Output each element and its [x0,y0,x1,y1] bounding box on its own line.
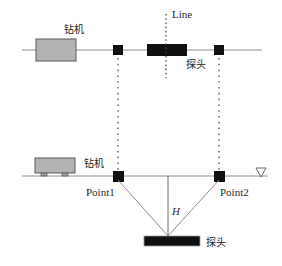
bottom-probe-label: 探头 [206,236,226,248]
top-probe-label: 探头 [186,58,206,70]
bottom-probe-bar [144,236,200,246]
point1-label: Point1 [86,186,115,198]
top-rig-label: 钻机 [64,23,84,35]
point2-label: Point2 [220,186,249,198]
bottom-drilling-rig-box [35,158,75,173]
depth-label-h: H [171,205,181,217]
marker-point2 [214,171,225,182]
top-probe-bar [147,44,187,56]
top-drilling-rig-box [36,39,76,61]
bottom-rig-label: 钻机 [84,157,104,169]
rig-wheel-left [41,173,47,176]
top-marker-point1 [113,45,123,55]
technical-diagram: 钻机 Line 探头 钻机 [0,0,282,266]
top-marker-point2 [214,45,224,55]
diagram-canvas: 钻机 Line 探头 钻机 [0,0,282,266]
line-label: Line [172,8,192,20]
rig-wheel-right [62,173,68,176]
